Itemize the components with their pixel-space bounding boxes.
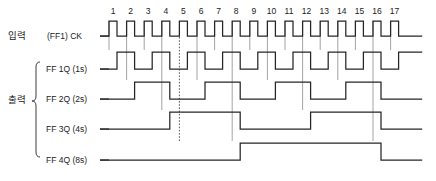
clock-number: 4 [163, 6, 168, 16]
signal-label-ff2q: FF 2Q (2s) [46, 94, 87, 104]
clock-number: 9 [251, 6, 256, 16]
clock-number: 17 [390, 6, 400, 16]
clock-number: 11 [285, 6, 294, 16]
clock-number: 14 [337, 6, 347, 16]
signal-label-ff4q: FF 4Q (8s) [46, 155, 87, 165]
input-group-label: 입력 [8, 30, 26, 41]
timing-diagram: 1234567891011121314151617 (FF1) CKFF 1Q … [0, 0, 436, 181]
signal-label-clock: (FF1) CK [47, 31, 82, 41]
clock-number: 7 [216, 6, 221, 16]
diagram-background [0, 0, 436, 181]
clock-number: 16 [372, 6, 382, 16]
clock-number: 3 [146, 6, 151, 16]
clock-number: 6 [199, 6, 204, 16]
clock-number: 8 [234, 6, 239, 16]
output-label: 출력 [8, 94, 26, 105]
clock-number: 2 [128, 6, 133, 16]
clock-number: 12 [302, 6, 312, 16]
signal-label-ff3q: FF 3Q (4s) [46, 124, 87, 134]
clock-number: 5 [181, 6, 186, 16]
input-label: 입력 [8, 30, 26, 41]
clock-number: 1 [111, 6, 116, 16]
signal-label-ff1q: FF 1Q (1s) [46, 64, 87, 74]
clock-number: 13 [319, 6, 329, 16]
clock-number: 15 [355, 6, 365, 16]
clock-number: 10 [267, 6, 277, 16]
